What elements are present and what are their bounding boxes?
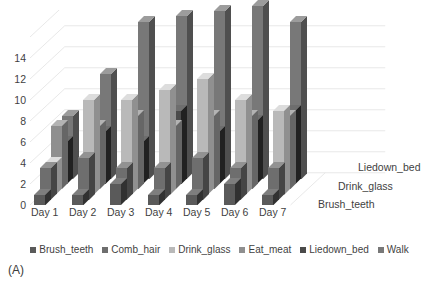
bar-top [235, 94, 252, 101]
y-axis-tick-label: 0 [6, 200, 26, 210]
bar-top [34, 189, 51, 196]
bar-brush_teeth-day2 [72, 195, 83, 206]
depth-axis-label-liedown_bed: Liedown_bed [358, 161, 420, 173]
depth-axis-label-brush_teeth: Brush_teeth [318, 198, 375, 210]
y-axis-tick-label: 2 [6, 179, 26, 189]
legend-item-drink_glass[interactable]: Drink_glass [169, 244, 230, 255]
bar-side [208, 73, 214, 195]
bar-side [105, 126, 111, 185]
bar-top [138, 16, 155, 23]
x-axis-tick-label-7: Day 7 [259, 206, 286, 218]
legend-swatch-icon [102, 247, 108, 253]
bar-top [214, 5, 231, 12]
bar-top [148, 189, 165, 196]
bar-side [263, 0, 269, 179]
x-axis-tick-label-3: Day 3 [107, 206, 134, 218]
bar-side [225, 5, 231, 179]
bar-top [83, 94, 100, 101]
bar-side [246, 94, 252, 195]
bar-top [262, 189, 279, 196]
bar-top [230, 162, 247, 169]
legend-swatch-icon [300, 247, 306, 253]
y-axis-tick-label: 14 [6, 53, 26, 63]
y-axis: 02468101214 [0, 10, 26, 210]
bar-brush_teeth-day6 [224, 184, 235, 205]
x-axis-tick-label-6: Day 6 [221, 206, 248, 218]
legend-swatch-icon [239, 247, 245, 253]
legend-swatch-icon [378, 247, 384, 253]
bar-face [224, 184, 235, 205]
x-axis-tick-label-4: Day 4 [145, 206, 172, 218]
bar-side [284, 105, 290, 195]
bar-top [51, 120, 68, 127]
y-axis-tick-label: 6 [6, 137, 26, 147]
bar-brush_teeth-day1 [34, 195, 45, 206]
bar-top [154, 162, 171, 169]
legend-label: Walk [387, 244, 409, 255]
bar-top [252, 0, 269, 7]
legend-swatch-icon [30, 247, 36, 253]
legend-label: Eat_meat [248, 244, 291, 255]
legend-item-walk[interactable]: Walk [378, 244, 409, 255]
bar-brush_teeth-day5 [186, 195, 197, 206]
bar-side [214, 110, 220, 190]
bar-side [67, 136, 73, 184]
bar-face [34, 195, 45, 206]
bar-top [186, 189, 203, 196]
legend-item-eat_meat[interactable]: Eat_meat [239, 244, 291, 255]
x-axis-tick-label-5: Day 5 [183, 206, 210, 218]
bar-side [295, 105, 301, 185]
bar-top [290, 16, 307, 23]
legend-item-brush_teeth[interactable]: Brush_teeth [30, 244, 93, 255]
x-axis-tick-label-1: Day 1 [31, 206, 58, 218]
bar-face [110, 184, 121, 205]
bar-face [72, 195, 83, 206]
bar-face [148, 195, 159, 206]
x-axis-tick-label-2: Day 2 [69, 206, 96, 218]
bar-top [78, 152, 95, 159]
bar-face [186, 195, 197, 206]
bar-side [100, 120, 106, 189]
bar-side [257, 115, 263, 184]
bar-side [170, 84, 176, 195]
y-axis-tick-label: 8 [6, 116, 26, 126]
bar-side [181, 105, 187, 185]
legend-label: Liedown_bed [309, 244, 369, 255]
bar-side [203, 152, 209, 200]
y-axis-tick-label: 12 [6, 74, 26, 84]
bar-top [72, 189, 89, 196]
bar-top [116, 162, 133, 169]
bar-top [273, 105, 290, 112]
bar-top [62, 110, 79, 117]
bar-side [94, 94, 100, 195]
legend-item-liedown_bed[interactable]: Liedown_bed [300, 244, 369, 255]
bar-side [143, 136, 149, 184]
bar-face [262, 195, 273, 206]
legend-item-comb_hair[interactable]: Comb_hair [102, 244, 160, 255]
bar-top [176, 10, 193, 17]
bar-top [268, 162, 285, 169]
bar-top [159, 84, 176, 91]
legend-label: Comb_hair [111, 244, 160, 255]
bar-side [132, 94, 138, 195]
bar-top [40, 162, 57, 169]
depth-axis-label-drink_glass: Drink_glass [338, 180, 393, 192]
bar-brush_teeth-day4 [148, 195, 159, 206]
y-axis-tick-label: 4 [6, 158, 26, 168]
chart-figure: 02468101214 Day 1Day 2Day 3Day 4Day 5Day… [0, 0, 439, 289]
bar-top [121, 94, 138, 101]
bar-top [100, 68, 117, 75]
bar-side [89, 152, 95, 200]
bar-side [290, 110, 296, 190]
bar-top [110, 178, 127, 185]
bar-top [192, 152, 209, 159]
legend-label: Brush_teeth [39, 244, 93, 255]
legend-swatch-icon [169, 247, 175, 253]
bar-side [219, 126, 225, 185]
bar-top [224, 178, 241, 185]
bar-side [301, 16, 307, 180]
bar-side [149, 16, 155, 180]
bar-top [197, 73, 214, 80]
chart-legend: Brush_teethComb_hairDrink_glassEat_meatL… [0, 244, 439, 255]
bar-side [252, 110, 258, 190]
